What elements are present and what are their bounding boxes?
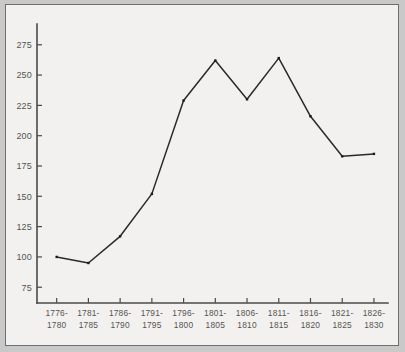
series-line-path (57, 58, 374, 263)
x-tick-label: 1826-1830 (363, 308, 385, 330)
x-tick-label: 1806-1810 (236, 308, 258, 330)
x-tick-label: 1791-1795 (141, 308, 163, 330)
x-tick-label: 1801-1805 (204, 308, 226, 330)
y-tick-label: 150 (16, 192, 32, 202)
y-tick-label: 225 (16, 101, 32, 111)
data-point-marker (182, 99, 184, 101)
y-tick-group: 75100125150175200225250275 (16, 40, 42, 292)
x-tick-label: 1816-1820 (299, 308, 321, 330)
data-point-marker (309, 115, 311, 117)
y-tick-label: 125 (16, 222, 32, 232)
line-chart: 75100125150175200225250275 1776-17801781… (6, 5, 400, 347)
x-axis-group: 1776-17801781-17851786-17901791-17951796… (37, 298, 388, 330)
y-tick-label: 175 (16, 161, 32, 171)
y-tick-label: 75 (22, 283, 32, 293)
x-tick-label: 1781-1785 (77, 308, 99, 330)
series-group (55, 57, 375, 264)
y-tick-label: 250 (16, 70, 32, 80)
data-point-marker (119, 235, 121, 237)
data-point-marker (55, 256, 57, 258)
x-tick-label: 1786-1790 (109, 308, 131, 330)
x-tick-label: 1796-1800 (172, 308, 194, 330)
data-point-marker (278, 57, 280, 59)
x-tick-label: 1776-1780 (45, 308, 67, 330)
data-point-marker (214, 59, 216, 61)
data-point-marker (151, 193, 153, 195)
data-point-marker (341, 155, 343, 157)
data-point-marker (87, 262, 89, 264)
data-point-marker (246, 98, 248, 100)
x-tick-label: 1811-1815 (268, 308, 290, 330)
y-tick-label: 275 (16, 40, 32, 50)
y-tick-label: 200 (16, 131, 32, 141)
series-marker-group (55, 57, 375, 264)
figure-frame: 75100125150175200225250275 1776-17801781… (5, 4, 399, 346)
x-tick-label: 1821-1825 (331, 308, 353, 330)
y-axis-group: 75100125150175200225250275 (16, 24, 42, 303)
y-tick-label: 100 (16, 252, 32, 262)
data-point-marker (373, 153, 375, 155)
